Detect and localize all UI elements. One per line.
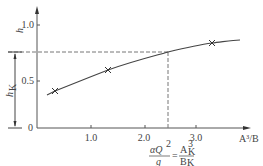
data-marker-1 (52, 88, 58, 94)
hk-arrow-up-icon (14, 53, 17, 59)
svg-text:αQ: αQ (150, 144, 163, 155)
x-tick-label-1: 1.0 (85, 132, 98, 143)
svg-text:K: K (188, 146, 196, 157)
svg-text:K: K (7, 83, 18, 91)
y-tick-label-0: 0 (28, 122, 33, 133)
y-axis-label: h (14, 28, 25, 33)
y-axis-arrow-icon (35, 6, 39, 14)
x-axis-arrow-icon (243, 126, 251, 130)
data-curve (47, 40, 240, 95)
x-tick-label-2: 2.0 (138, 132, 151, 143)
y-tick-label-05: 0.5 (22, 75, 35, 86)
svg-text:=: = (172, 150, 178, 161)
svg-text:2: 2 (166, 138, 171, 149)
chart-canvas: 1.0 0.5 0 1.0 2.0 3.0 h A³/B h K αQ 2 g … (0, 0, 263, 166)
svg-text:B: B (180, 156, 187, 166)
svg-text:K: K (187, 157, 195, 166)
data-marker-2 (105, 67, 111, 73)
hk-arrow-down-icon (14, 121, 17, 127)
critical-equation-label: αQ 2 g = A 3 K B K (149, 138, 196, 166)
svg-text:A: A (180, 144, 188, 155)
svg-text:h: h (4, 92, 15, 97)
svg-text:g: g (156, 156, 161, 166)
hk-label: h K (4, 83, 18, 97)
x-axis-label: A³/B (239, 133, 259, 144)
